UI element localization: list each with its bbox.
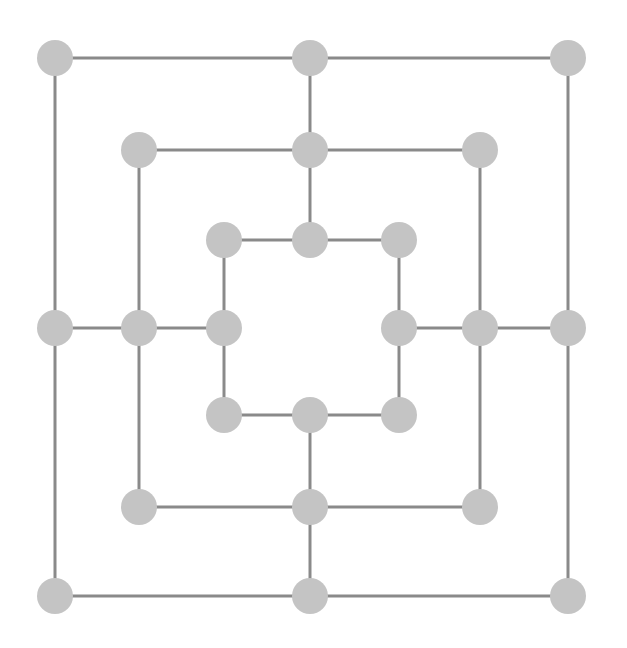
graph-node[interactable]: [292, 397, 328, 433]
graph-node[interactable]: [292, 489, 328, 525]
graph-node[interactable]: [381, 397, 417, 433]
graph-node[interactable]: [206, 397, 242, 433]
graph-node[interactable]: [292, 222, 328, 258]
graph-node[interactable]: [121, 489, 157, 525]
graph-node[interactable]: [550, 310, 586, 346]
graph-node[interactable]: [37, 578, 73, 614]
graph-node[interactable]: [121, 132, 157, 168]
graph-node[interactable]: [37, 310, 73, 346]
graph-node[interactable]: [37, 40, 73, 76]
graph-node[interactable]: [206, 222, 242, 258]
graph-node[interactable]: [292, 578, 328, 614]
graph-node[interactable]: [381, 310, 417, 346]
graph-svg: [0, 0, 627, 648]
graph-node[interactable]: [462, 310, 498, 346]
graph-node[interactable]: [292, 40, 328, 76]
graph-node[interactable]: [292, 132, 328, 168]
graph-node[interactable]: [121, 310, 157, 346]
graph-node[interactable]: [206, 310, 242, 346]
graph-node[interactable]: [462, 489, 498, 525]
diagram-canvas: [0, 0, 627, 648]
graph-node[interactable]: [550, 578, 586, 614]
graph-node[interactable]: [462, 132, 498, 168]
graph-node[interactable]: [381, 222, 417, 258]
graph-node[interactable]: [550, 40, 586, 76]
